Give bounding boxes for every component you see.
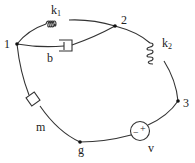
m-label: m: [36, 120, 46, 134]
k2-label: k2: [162, 36, 172, 51]
node-1-label: 1: [4, 37, 10, 51]
node-2-label: 2: [121, 13, 127, 27]
node-g-label: g: [78, 143, 84, 157]
b-label: b: [47, 51, 53, 65]
minus-sign: −: [133, 127, 139, 138]
node-3: [176, 99, 180, 103]
voltage-source-v: [80, 101, 178, 142]
spring-k2: [115, 26, 178, 101]
plus-sign: +: [140, 123, 146, 134]
damper-b: [17, 26, 115, 51]
node-1: [15, 42, 19, 46]
k1-label: k1: [51, 3, 61, 18]
v-label: v: [148, 141, 154, 155]
node-2: [113, 24, 117, 28]
linear-graph-diagram: 1 2 3 g k1 b k2 m v − +: [0, 0, 195, 163]
node-3-label: 3: [183, 96, 189, 110]
